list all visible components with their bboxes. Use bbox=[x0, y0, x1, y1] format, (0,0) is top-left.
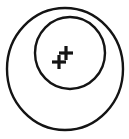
figure-canvas bbox=[0, 0, 129, 139]
background bbox=[0, 0, 129, 139]
circles-diagram bbox=[0, 0, 129, 139]
